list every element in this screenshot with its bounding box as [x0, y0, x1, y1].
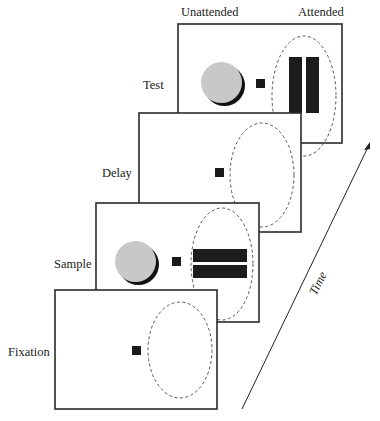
vertical-bar-icon — [289, 57, 302, 113]
label-sample: Sample — [54, 257, 92, 271]
diagram-canvas: Unattended Attended Test Delay Sample Fi… — [0, 0, 380, 421]
horizontal-bar-icon — [193, 249, 247, 262]
label-test: Test — [143, 78, 164, 92]
label-unattended: Unattended — [181, 5, 239, 19]
vertical-bar-icon — [306, 57, 319, 113]
fixation-point-icon — [132, 346, 141, 355]
fixation-point-icon — [256, 79, 265, 88]
frame-fixation — [55, 290, 217, 409]
fixation-point-icon — [172, 257, 181, 266]
label-attended: Attended — [298, 5, 345, 19]
label-fixation: Fixation — [8, 345, 50, 359]
arrowhead-icon — [364, 142, 370, 150]
fixation-point-icon — [215, 168, 224, 177]
label-time: Time — [306, 269, 330, 297]
label-delay: Delay — [102, 166, 133, 180]
horizontal-bar-icon — [193, 265, 247, 278]
gray-disc-icon — [201, 62, 242, 103]
gray-disc-icon — [115, 241, 156, 282]
